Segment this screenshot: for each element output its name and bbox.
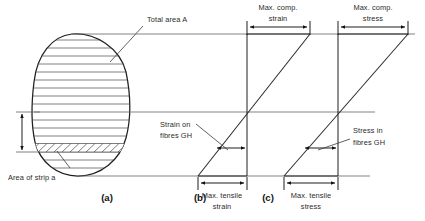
max-tensile-stress-label-line2: stress <box>301 202 322 211</box>
section-outline <box>32 34 130 176</box>
max-comp-strain-label-line2: strain <box>269 14 288 23</box>
total-area-label: Total area A <box>147 15 187 24</box>
total-area-leader-line <box>110 26 143 62</box>
caption-c: (c) <box>262 192 274 203</box>
bending-stress-strain-figure: (a) <box>0 0 425 221</box>
stress-distribution-line <box>284 34 408 176</box>
max-comp-strain-label-line1: Max. comp. <box>258 3 297 12</box>
max-comp-strain-dimension <box>247 21 310 35</box>
strain-distribution-line <box>198 34 310 176</box>
strain-on-fibres-leader-line <box>196 124 228 150</box>
max-tensile-strain-dimension <box>198 177 247 190</box>
area-of-strip-label: Area of strip a <box>8 173 56 182</box>
max-tensile-stress-label-line1: Max. tensile <box>291 191 332 200</box>
strain-on-fibres-label-line1: Strain on <box>160 120 190 129</box>
max-comp-stress-label-line1: Max. comp. <box>353 3 392 12</box>
figure-canvas: (a) <box>0 0 425 221</box>
strain-on-fibres-label-line2: fibres GH <box>160 131 192 140</box>
max-tensile-strain-label-line2: strain <box>213 202 232 211</box>
stress-in-fibres-label-line2: fibres GH <box>353 138 385 147</box>
max-comp-stress-label-line2: stress <box>363 14 384 23</box>
caption-a: (a) <box>101 192 113 203</box>
stress-in-fibres-label-line1: Stress in <box>353 126 383 135</box>
max-comp-stress-dimension <box>338 21 408 35</box>
max-tensile-strain-label-line1: Max. tensile <box>202 191 243 200</box>
max-tensile-stress-dimension <box>284 177 338 190</box>
